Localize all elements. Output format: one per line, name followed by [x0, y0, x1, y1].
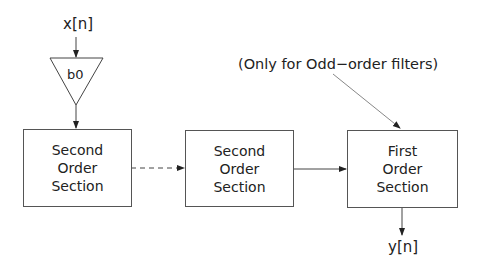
input-label: x[n] [63, 16, 93, 32]
output-label: y[n] [388, 239, 418, 255]
block-line: Order [220, 160, 260, 178]
block-line: Order [58, 159, 98, 177]
block-second-order-section-1: Second Order Section [23, 129, 132, 207]
block-line: Second [52, 141, 104, 159]
block-line: First [388, 142, 417, 160]
block-line: Section [213, 178, 265, 196]
gain-label: b0 [67, 68, 84, 82]
block-second-order-section-2: Second Order Section [185, 130, 294, 207]
block-line: Section [376, 178, 428, 196]
block-line: Order [383, 160, 423, 178]
block-line: Second [214, 142, 266, 160]
block-line: Section [51, 177, 103, 195]
block-first-order-section: First Order Section [347, 130, 458, 208]
annotation-pointer-arrow [333, 74, 400, 128]
annotation-label: (Only for Odd−order filters) [238, 56, 438, 72]
